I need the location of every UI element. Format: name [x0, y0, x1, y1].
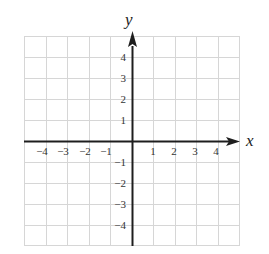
y-tick-label: −1: [114, 156, 126, 168]
x-tick-label: −1: [100, 145, 112, 157]
y-tick-label: −4: [114, 219, 126, 231]
y-axis: [128, 31, 137, 246]
y-tick-label: −2: [114, 177, 126, 189]
y-tick-label: 1: [121, 114, 127, 126]
x-tick-labels: −4 −3 −2 −1 1 2 3 4: [36, 145, 219, 157]
x-tick-label: −4: [36, 145, 48, 157]
y-axis-label: y: [123, 10, 133, 29]
coordinate-plane: x y −4 −3 −2 −1 1 2 3 4 4 3 2 1 −1 −2 −3…: [0, 0, 269, 254]
x-tick-label: 2: [171, 145, 177, 157]
x-tick-label: −3: [57, 145, 69, 157]
x-tick-label: 4: [213, 145, 219, 157]
y-axis-arrow-icon: [128, 31, 137, 47]
y-tick-label: 2: [121, 93, 127, 105]
x-tick-label: 1: [150, 145, 156, 157]
y-tick-label: 3: [121, 72, 127, 84]
x-tick-label: −2: [79, 145, 91, 157]
x-tick-label: 3: [192, 145, 198, 157]
y-tick-label: 4: [121, 51, 127, 63]
y-tick-label: −3: [114, 198, 126, 210]
x-axis-label: x: [245, 131, 254, 150]
